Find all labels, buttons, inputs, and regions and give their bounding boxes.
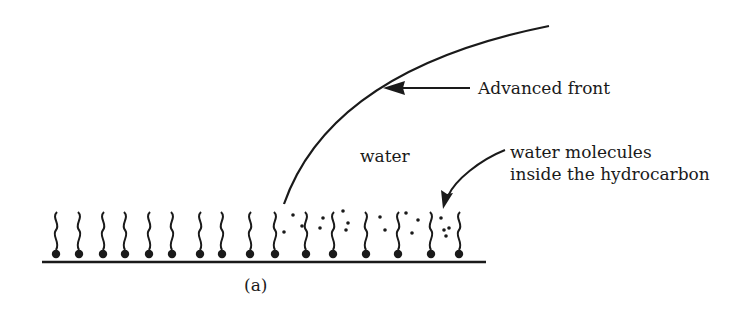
water-molecules-arrow [441,150,505,209]
water-dot [282,230,286,234]
water-molecules-label-line2: inside the hydrocarbon [510,164,710,184]
advanced-front-label: Advanced front [478,78,610,98]
surfactant-tail [458,212,461,250]
advanced-front-arrow [383,81,470,95]
surfactant-head [145,250,153,258]
water-dot [439,216,443,220]
surfactant-head [394,250,402,258]
surfactant-head [121,250,129,258]
surfactant-tail [124,212,127,250]
surfactant-molecules-wet [302,212,463,258]
surfactant-tail [55,212,58,250]
surfactant-head [302,250,310,258]
surfactant-head [99,250,107,258]
surfactant-tail [221,212,224,250]
water-dot [378,215,382,219]
surfactant-head [427,250,435,258]
water-molecules-label-line1: water molecules [510,142,652,162]
surfactant-tail [249,212,252,250]
surfactant-head [246,250,254,258]
surfactant-molecules-dry [52,212,279,258]
surfactant-head [196,250,204,258]
surfactant-head [455,250,463,258]
water-dot [300,224,304,228]
surfactant-tail [332,212,335,250]
surfactant-tail [365,212,368,250]
panel-label: (a) [244,275,267,295]
surfactant-head [362,250,370,258]
water-dot [383,228,387,232]
surfactant-head [75,250,83,258]
water-dot [321,216,325,220]
surfactant-tail [171,212,174,250]
surfactant-tail [199,212,202,250]
water-dot [447,226,451,230]
water-dot [291,213,295,217]
surfactant-tail [148,212,151,250]
surfactant-head [168,250,176,258]
water-dot [444,234,448,238]
water-dot [318,226,322,230]
surfactant-tail [397,212,400,250]
surfactant-head [52,250,60,258]
water-dot [404,211,408,215]
surfactant-tail [78,212,81,250]
surfactant-tail [274,212,277,250]
water-dot [416,218,420,222]
surfactant-tail [430,212,433,250]
water-dot [341,209,345,213]
surfactant-tail [102,212,105,250]
water-dot [346,221,350,225]
surfactant-head [271,250,279,258]
surfactant-tail [305,212,308,250]
surfactant-head [329,250,337,258]
surfactant-head [218,250,226,258]
water-dot [442,228,446,232]
water-dot [344,228,348,232]
water-label: water [360,146,410,166]
water-dot [410,231,414,235]
